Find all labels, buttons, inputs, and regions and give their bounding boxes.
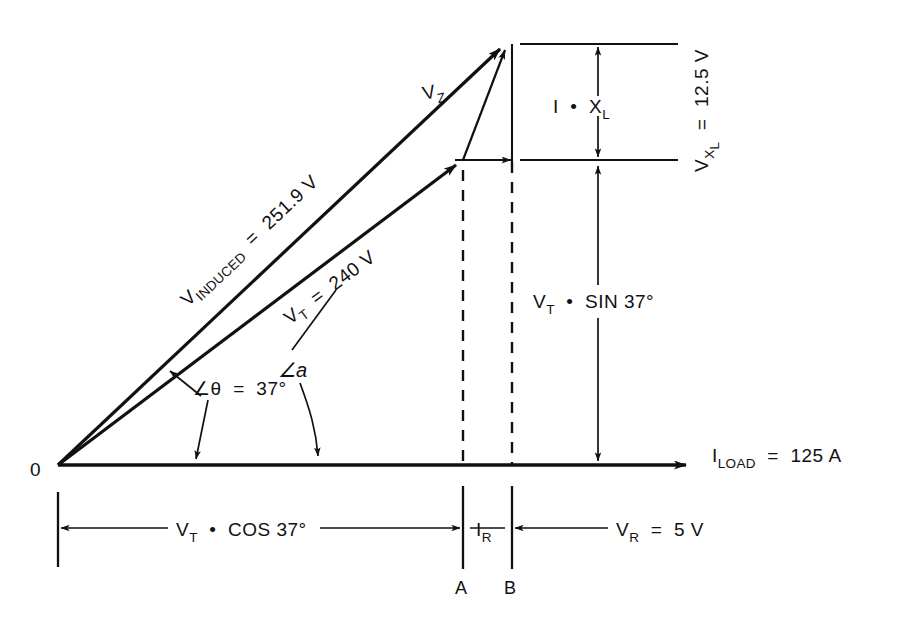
- diagram-canvas: 0 VINDUCED = 251.9 V VT = 240 V VZ ILOAD…: [0, 0, 904, 623]
- vxl-sub2: L: [707, 142, 722, 150]
- ir-subscript: R: [482, 530, 492, 545]
- vt-sin-label: VT • SIN 37°: [533, 291, 654, 317]
- vt-cos-term2: COS 37°: [228, 519, 307, 540]
- vr-value: 5 V: [674, 519, 704, 540]
- vt-cos-operator: •: [209, 519, 216, 540]
- v-z-subscript: Z: [436, 90, 447, 106]
- svg-text:VINDUCED = 251.9 V: VINDUCED = 251.9 V: [176, 171, 325, 313]
- vt-sin-term1-sub: T: [546, 302, 555, 317]
- angle-theta-value: 37°: [256, 378, 286, 399]
- v-t-value: 240 V: [325, 246, 379, 294]
- i-load-equals: =: [767, 445, 779, 466]
- phasor-diagram: 0 VINDUCED = 251.9 V VT = 240 V VZ ILOAD…: [0, 0, 904, 623]
- point-a-label: A: [455, 578, 467, 598]
- vr-subscript: R: [629, 530, 639, 545]
- vxl-label: VXL = 12.5 V: [691, 49, 722, 172]
- v-t-vector: [58, 165, 456, 465]
- ixl-label: I • XL: [553, 96, 610, 122]
- vxl-sub1: X: [702, 150, 717, 159]
- i-load-value: 125 A: [790, 445, 841, 466]
- vr-label: VR = 5 V: [616, 519, 704, 545]
- vxl-name: V: [691, 159, 712, 172]
- angle-theta-symbol: ∠θ: [193, 378, 222, 399]
- vt-sin-term1: V: [533, 291, 546, 312]
- v-induced-label: VINDUCED = 251.9 V: [176, 171, 325, 313]
- point-b-label: B: [504, 578, 516, 598]
- v-induced-subscript: INDUCED: [193, 249, 250, 304]
- origin-label: 0: [30, 459, 41, 480]
- i-load-label: ILOAD = 125 A: [712, 445, 842, 471]
- ixl-operator: •: [570, 96, 577, 117]
- vxl-equals: =: [691, 119, 712, 131]
- vr-name: V: [616, 519, 629, 540]
- vt-cos-term1-sub: T: [189, 530, 198, 545]
- v-z-label: VZ: [420, 79, 447, 109]
- angle-a-label: ∠a: [278, 359, 307, 381]
- vt-cos-label: VT • COS 37°: [176, 519, 307, 545]
- angle-theta-label: ∠θ = 37°: [193, 378, 287, 399]
- ixl-term2: X: [589, 96, 602, 117]
- angle-theta-equals: =: [233, 378, 245, 399]
- alpha-leader-lower: [300, 383, 318, 456]
- vt-cos-term1: V: [176, 519, 189, 540]
- ir-label: IR: [476, 519, 492, 545]
- ixl-term2-sub: L: [602, 107, 610, 122]
- vxl-value: 12.5 V: [691, 49, 712, 107]
- theta-leader: [196, 400, 208, 459]
- v-induced-vector: [58, 49, 500, 465]
- svg-text:VZ: VZ: [420, 79, 447, 109]
- vt-sin-operator: •: [566, 291, 573, 312]
- svg-text:VXL = 12.5 V: VXL = 12.5 V: [691, 49, 722, 172]
- vt-sin-term2: SIN 37°: [585, 291, 654, 312]
- i-load-subscript: LOAD: [718, 456, 756, 471]
- v-z-vector: [463, 50, 505, 160]
- vr-equals: =: [651, 519, 663, 540]
